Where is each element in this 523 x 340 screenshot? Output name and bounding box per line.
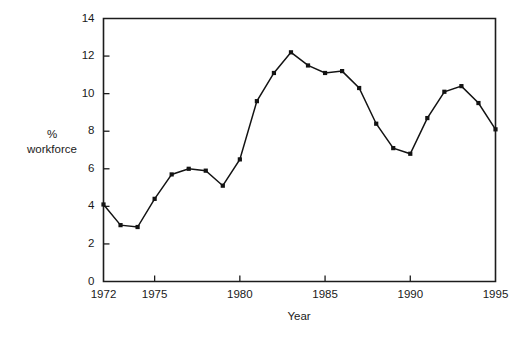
y-tick-label-4: 4 xyxy=(88,199,95,211)
y-axis-title-line1: % xyxy=(47,128,57,140)
data-point-1975 xyxy=(153,197,157,201)
y-tick-label-14: 14 xyxy=(82,12,95,24)
data-point-1977 xyxy=(187,167,191,171)
data-point-1985 xyxy=(323,71,327,75)
y-axis-title-line2: workforce xyxy=(26,143,77,155)
data-point-1988 xyxy=(374,122,378,126)
data-point-1980 xyxy=(238,157,242,161)
y-axis-tick-labels: 02468101214 xyxy=(82,12,95,287)
data-point-1984 xyxy=(306,63,310,67)
y-tick-label-0: 0 xyxy=(88,275,94,287)
x-tick-label-1980: 1980 xyxy=(227,288,253,300)
x-axis-title: Year xyxy=(287,310,310,322)
x-tick-label-1972: 1972 xyxy=(91,288,117,300)
y-tick-label-10: 10 xyxy=(82,87,95,99)
chart-canvas: 02468101214 197219751980198519901995 % w… xyxy=(0,0,523,340)
y-tick-label-2: 2 xyxy=(88,237,94,249)
x-tick-label-1985: 1985 xyxy=(312,288,338,300)
x-axis-tick-marks xyxy=(155,276,411,282)
data-point-1991 xyxy=(425,116,429,120)
data-point-markers xyxy=(101,50,497,229)
data-point-1983 xyxy=(289,50,293,54)
x-tick-label-1995: 1995 xyxy=(483,288,509,300)
data-point-1978 xyxy=(204,169,208,173)
data-point-1987 xyxy=(357,86,361,90)
data-point-1974 xyxy=(135,225,139,229)
data-point-1986 xyxy=(340,69,344,73)
y-tick-label-12: 12 xyxy=(82,49,95,61)
y-axis-tick-marks xyxy=(104,56,110,244)
data-point-1993 xyxy=(459,84,463,88)
data-point-1994 xyxy=(476,101,480,105)
y-tick-label-6: 6 xyxy=(88,162,94,174)
data-point-1990 xyxy=(408,152,412,156)
data-point-1989 xyxy=(391,146,395,150)
data-point-1981 xyxy=(255,99,259,103)
data-point-1972 xyxy=(101,202,105,206)
x-tick-label-1975: 1975 xyxy=(142,288,168,300)
data-point-1979 xyxy=(221,184,225,188)
x-tick-label-1990: 1990 xyxy=(397,288,423,300)
y-tick-label-8: 8 xyxy=(88,124,94,136)
x-axis-tick-labels: 197219751980198519901995 xyxy=(91,288,509,300)
data-point-1982 xyxy=(272,71,276,75)
line-chart: 02468101214 197219751980198519901995 % w… xyxy=(0,0,523,340)
data-point-1995 xyxy=(493,127,497,131)
data-point-1976 xyxy=(170,172,174,176)
data-series-line xyxy=(104,52,496,227)
data-point-1973 xyxy=(118,223,122,227)
data-point-1992 xyxy=(442,90,446,94)
